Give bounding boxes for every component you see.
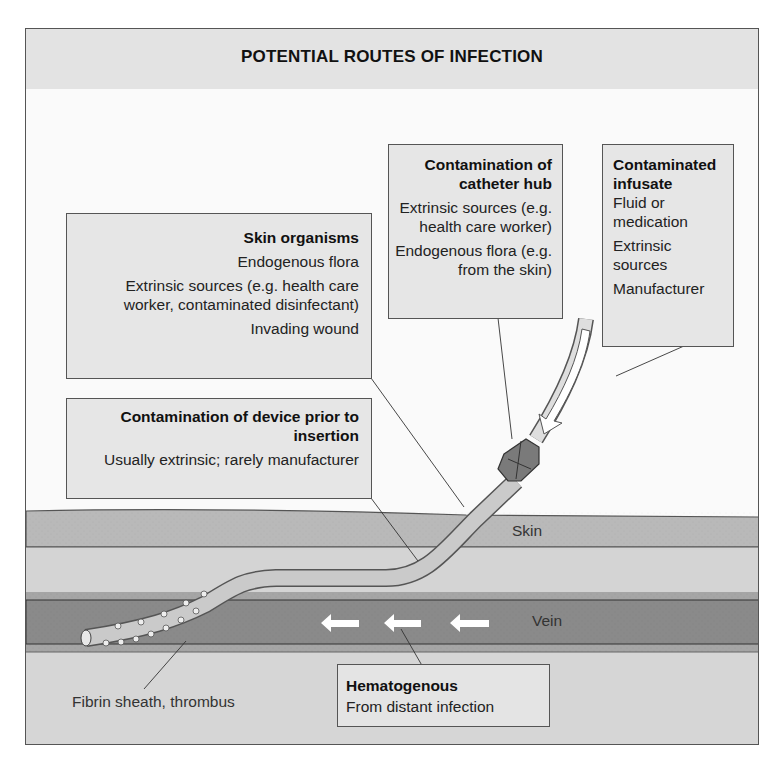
figure-frame: POTENTIAL ROUTES OF INFECTION [25,28,759,745]
box-line: Endogenous flora [75,252,359,271]
anatomy-illustration [26,29,759,745]
box-heading: Contamination of device prior to inserti… [75,407,359,445]
box-line: Manufacturer [613,279,727,298]
box-line: Extrinsic sources (e.g. health care work… [75,276,359,314]
skin-layer [26,510,759,547]
skin-label: Skin [512,522,542,540]
box-heading: Hematogenous [346,676,541,695]
box-line: From distant infection [346,697,541,716]
box-line: Endogenous flora (e.g. from the skin) [395,241,552,279]
catheter-hub-box: Contamination of catheter hub Extrinsic … [388,144,563,319]
fibrin-sheath-label: Fibrin sheath, thrombus [72,693,235,711]
box-heading: Contaminated infusate [613,155,727,193]
box-line: Extrinsic sources (e.g. health care work… [395,198,552,236]
box-line: Extrinsic sources [613,236,727,274]
box-line: Invading wound [75,319,359,338]
box-line: Usually extrinsic; rarely manufacturer [75,450,359,469]
hematogenous-box: Hematogenous From distant infection [337,664,550,727]
vein-label: Vein [532,612,562,630]
box-heading: Contamination of catheter hub [395,155,552,193]
contaminated-infusate-box: Contaminated infusate Fluid or medicatio… [602,144,734,347]
catheter-hub-icon [498,439,539,481]
skin-organisms-box: Skin organisms Endogenous flora Extrinsi… [66,213,372,379]
device-contamination-box: Contamination of device prior to inserti… [66,398,372,499]
box-heading: Skin organisms [75,228,359,247]
box-line: Fluid or medication [613,193,727,231]
